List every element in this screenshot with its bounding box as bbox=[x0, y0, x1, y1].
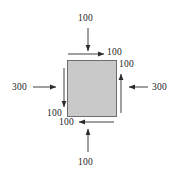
label-right-outer: 300 bbox=[152, 82, 167, 92]
label-top-outer: 100 bbox=[78, 13, 93, 23]
label-bottom-outer: 100 bbox=[78, 157, 93, 167]
square-block bbox=[68, 61, 117, 117]
label-left-outer: 300 bbox=[12, 82, 27, 92]
label-bottom-inner: 100 bbox=[59, 117, 74, 127]
label-top-inner: 100 bbox=[107, 47, 122, 57]
label-right-inner: 100 bbox=[119, 59, 134, 69]
force-couple-diagram: 100 100 100 300 300 100 100 100 bbox=[0, 0, 182, 179]
